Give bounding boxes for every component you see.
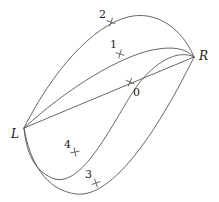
tick-mark-3 [92,179,100,187]
tick-mark-1 [116,50,124,58]
curve-path-3 [24,57,194,194]
curve-label-0: 0 [133,87,140,98]
curve-path-2 [24,15,194,128]
curve-label-4: 4 [64,139,71,150]
tick-marks-group [71,18,134,187]
tick-mark-4 [71,148,79,156]
curve-diagram: L R 0 1 2 3 4 [0,0,219,202]
vertex-label-L: L [11,128,19,140]
curve-path-1 [24,48,194,128]
curve-label-3: 3 [85,169,92,180]
diagram-canvas [0,0,219,202]
curve-label-2: 2 [99,9,106,20]
curve-path-0 [24,57,194,128]
curve-paths-group [24,15,194,194]
curve-label-1: 1 [110,39,117,50]
vertex-label-R: R [199,50,208,62]
